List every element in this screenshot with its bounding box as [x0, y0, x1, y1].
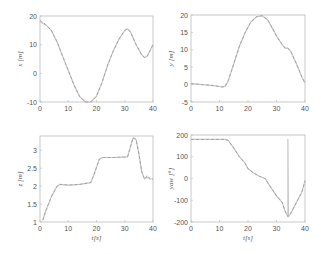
- y-tick-label: -10: [27, 99, 37, 106]
- y-tick-label: -200: [174, 219, 188, 226]
- y-tick-label: -5: [182, 99, 188, 106]
- series-actual-line: [191, 16, 305, 87]
- subplot-y-position: 010203040-505101520y [m]: [167, 12, 309, 113]
- y-tick-label: 3: [33, 147, 37, 154]
- x-tick-label: 30: [273, 225, 281, 232]
- x-tick-label: 10: [216, 105, 224, 112]
- x-tick-label: 30: [273, 105, 281, 112]
- y-tick-label: 1.5: [27, 201, 37, 208]
- x-tick-label: 30: [121, 225, 129, 232]
- y-tick-label: 0: [184, 81, 188, 88]
- x-tick-label: 40: [301, 105, 309, 112]
- y-tick-label: 100: [176, 153, 188, 160]
- x-tick-label: 10: [64, 105, 72, 112]
- y-tick-label: 20: [29, 13, 37, 20]
- subplot-x-position: 010203040-1001020x [m]: [16, 13, 157, 113]
- y-tick-label: 200: [176, 132, 188, 139]
- x-tick-label: 0: [189, 225, 193, 232]
- x-tick-label: 0: [189, 105, 193, 112]
- series-reference-line: [40, 20, 153, 102]
- y-tick-label: 2: [33, 183, 37, 190]
- y-tick-label: 5: [184, 64, 188, 71]
- y-axis-label: yaw [°]: [167, 168, 175, 191]
- series-reference-line: [43, 138, 153, 220]
- figure-canvas: 010203040-1001020x [m] 010203040-5051015…: [0, 0, 321, 254]
- y-tick-label: 1: [33, 219, 37, 226]
- x-tick-label: 20: [244, 105, 252, 112]
- x-tick-label: 40: [149, 225, 157, 232]
- x-tick-label: 0: [38, 225, 42, 232]
- x-tick-label: 40: [301, 225, 309, 232]
- y-tick-label: 10: [180, 46, 188, 53]
- x-tick-label: 40: [149, 105, 157, 112]
- x-tick-label: 10: [216, 225, 224, 232]
- y-tick-label: 15: [180, 29, 188, 36]
- y-tick-label: 0: [33, 70, 37, 77]
- y-axis-label: x [m]: [16, 51, 24, 68]
- axes-frame: [40, 136, 153, 222]
- x-tick-label: 20: [93, 225, 101, 232]
- x-tick-label: 20: [244, 225, 252, 232]
- y-tick-label: 10: [29, 41, 37, 48]
- y-axis-label: z [m]: [16, 171, 24, 187]
- x-tick-label: 0: [38, 105, 42, 112]
- series-actual-line: [191, 139, 305, 216]
- y-axis-label: y [m]: [167, 51, 175, 68]
- x-tick-label: 10: [64, 225, 72, 232]
- x-axis-label: t[s]: [243, 234, 253, 242]
- y-tick-label: 0: [184, 175, 188, 182]
- x-tick-label: 30: [121, 105, 129, 112]
- y-tick-label: 20: [180, 12, 188, 19]
- y-tick-label: -100: [174, 197, 188, 204]
- series-actual-line: [40, 22, 153, 102]
- y-tick-label: 2.5: [27, 165, 37, 172]
- x-tick-label: 20: [93, 105, 101, 112]
- subplot-yaw-angle: 010203040-200-1000100200yaw [°]t[s]: [167, 132, 309, 243]
- x-axis-label: t[s]: [91, 234, 101, 242]
- subplot-z-position: 01020304011.522.53z [m]t[s]: [16, 136, 157, 242]
- series-actual-line: [43, 138, 153, 220]
- axes-frame: [40, 16, 153, 102]
